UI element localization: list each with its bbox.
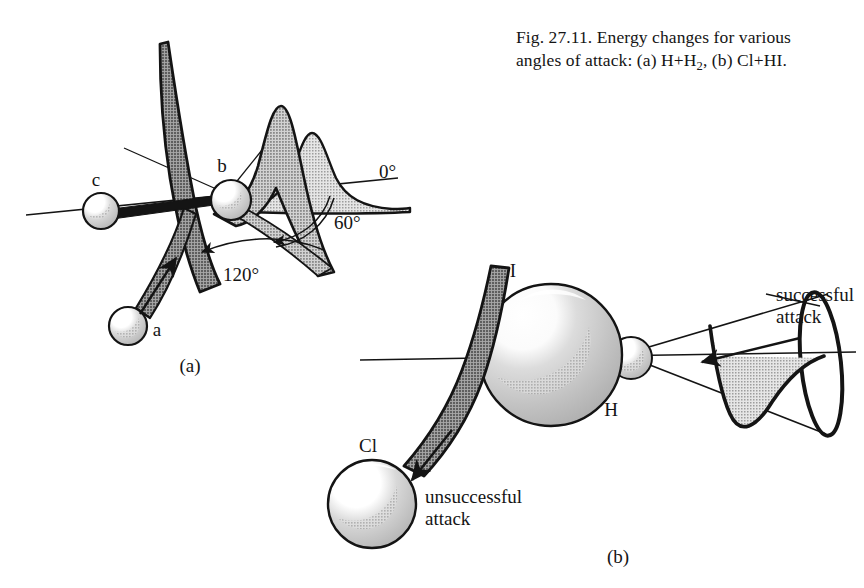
panel-a-group: c b a 0° 60° 120° (a) bbox=[26, 42, 410, 377]
figure-caption-line-2: angles of attack: (a) H+H2, (b) Cl+HI. bbox=[516, 49, 856, 74]
figure-caption-line-2-pre: angles of attack: (a) H+H bbox=[516, 50, 697, 70]
angle-label-60deg: 60° bbox=[334, 212, 361, 233]
figure-root: c b a 0° 60° 120° (a) bbox=[0, 0, 864, 588]
figure-caption: Fig. 27.11. Energy changes for various a… bbox=[516, 26, 856, 75]
atom-cl-label: Cl bbox=[359, 435, 377, 456]
atom-c-label: c bbox=[92, 169, 100, 190]
unsuccessful-attack-label-line2: attack bbox=[425, 508, 471, 529]
atom-c bbox=[83, 193, 119, 229]
barrier-skirt-120deg bbox=[136, 208, 196, 318]
angle-label-120deg: 120° bbox=[223, 264, 259, 285]
successful-attack-label-line2: attack bbox=[776, 306, 822, 327]
panel-b-group: H I Cl successful attack u bbox=[328, 260, 856, 568]
atom-a-label: a bbox=[153, 319, 162, 340]
angle-label-0deg: 0° bbox=[379, 161, 396, 182]
panel-a-label: (a) bbox=[179, 355, 200, 377]
atom-b bbox=[211, 180, 251, 220]
atom-h-label: H bbox=[604, 399, 618, 420]
successful-attack-label-line1: successful bbox=[776, 284, 854, 305]
atom-i-label: I bbox=[510, 260, 516, 281]
atom-b-label: b bbox=[217, 155, 227, 176]
panel-b-label: (b) bbox=[607, 546, 629, 568]
unsuccessful-attack-label-line1: unsuccessful bbox=[425, 486, 522, 507]
figure-caption-line-1: Fig. 27.11. Energy changes for various bbox=[516, 26, 856, 49]
figure-caption-line-2-post: , (b) Cl+HI. bbox=[703, 50, 787, 70]
figure-canvas: c b a 0° 60° 120° (a) bbox=[0, 0, 864, 588]
atom-cl bbox=[328, 460, 416, 548]
